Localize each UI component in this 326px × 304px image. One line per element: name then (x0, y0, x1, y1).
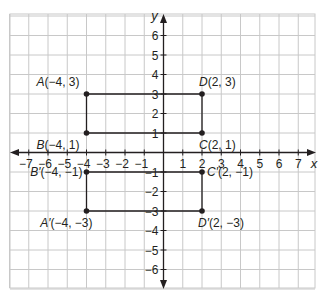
x-axis-label: x (310, 156, 318, 171)
point-label-c-prime: C′(2, −1) (207, 165, 253, 179)
point-c-prime (199, 169, 205, 175)
y-tick-label: −5 (145, 244, 159, 258)
x-tick-label: −2 (115, 157, 129, 171)
point-d-prime (199, 208, 205, 214)
x-tick-label: 6 (276, 157, 283, 171)
point-c (199, 130, 205, 136)
point-b-prime (84, 169, 90, 175)
x-tick-label: −3 (96, 157, 110, 171)
point-d (199, 91, 205, 97)
point-label-d: D(2, 3) (199, 75, 236, 89)
x-tick-label: 1 (179, 157, 186, 171)
point-label-d-prime: D′(2, −3) (198, 216, 244, 230)
y-tick-label: 5 (152, 49, 159, 63)
x-tick-label: 7 (295, 157, 302, 171)
coordinate-plane: −7−6−5−4−3−2−11234567654321−1−2−3−4−5−6x… (0, 0, 326, 304)
x-tick-label: 2 (199, 157, 206, 171)
point-label-a: A(−4, 3) (35, 75, 79, 89)
y-tick-label: −2 (145, 185, 159, 199)
point-b (84, 130, 90, 136)
point-label-a-prime: A′(−4, −3) (39, 216, 92, 230)
point-label-b-prime: B′(−4, −1) (30, 165, 82, 179)
coordinate-plane-figure: −7−6−5−4−3−2−11234567654321−1−2−3−4−5−6x… (0, 0, 326, 304)
point-label-c: C(2, 1) (199, 138, 236, 152)
x-tick-label: 5 (256, 157, 263, 171)
point-a-prime (84, 208, 90, 214)
x-axis-left-arrow-icon (10, 149, 19, 156)
y-axis-up-arrow-icon (160, 14, 167, 23)
y-tick-label: −4 (145, 224, 159, 238)
y-tick-label: 4 (152, 68, 159, 82)
y-tick-label: −6 (145, 263, 159, 277)
point-label-b: B(−4, 1) (36, 138, 79, 152)
point-a (84, 91, 90, 97)
y-tick-label: 6 (152, 29, 159, 43)
y-tick-label: 2 (152, 107, 159, 121)
